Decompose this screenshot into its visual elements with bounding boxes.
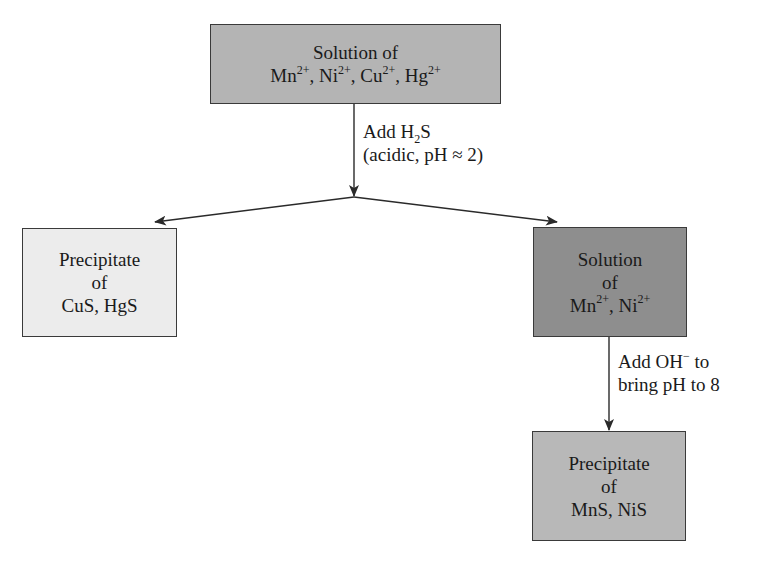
step-1-reagent: Add H2S [363,120,483,143]
node-solution-mn-ni: Solution of Mn2+, Ni2+ [533,227,687,337]
step-2-condition: bring pH to 8 [618,373,720,396]
step-2-reagent: Add OH− to [618,350,720,373]
ion-list: Mn2+, Ni2+, Cu2+, Hg2+ [270,64,440,87]
step-2-label: Add OH− to bring pH to 8 [618,350,720,396]
node-starting-solution: Solution of Mn2+, Ni2+, Cu2+, Hg2+ [210,24,501,104]
step-1-condition: (acidic, pH ≈ 2) [363,143,483,166]
arrow-split-to-solution-2 [354,197,557,222]
step-1-label: Add H2S (acidic, pH ≈ 2) [363,120,483,166]
node-precipitate-cus-hgs: Precipitate of CuS, HgS [22,228,177,337]
node-precipitate-mns-nis: Precipitate of MnS, NiS [532,431,686,541]
arrow-split-to-precipitate-1 [155,197,354,222]
node-title: Solution of [313,41,398,64]
ion-list: Mn2+, Ni2+ [570,294,650,317]
